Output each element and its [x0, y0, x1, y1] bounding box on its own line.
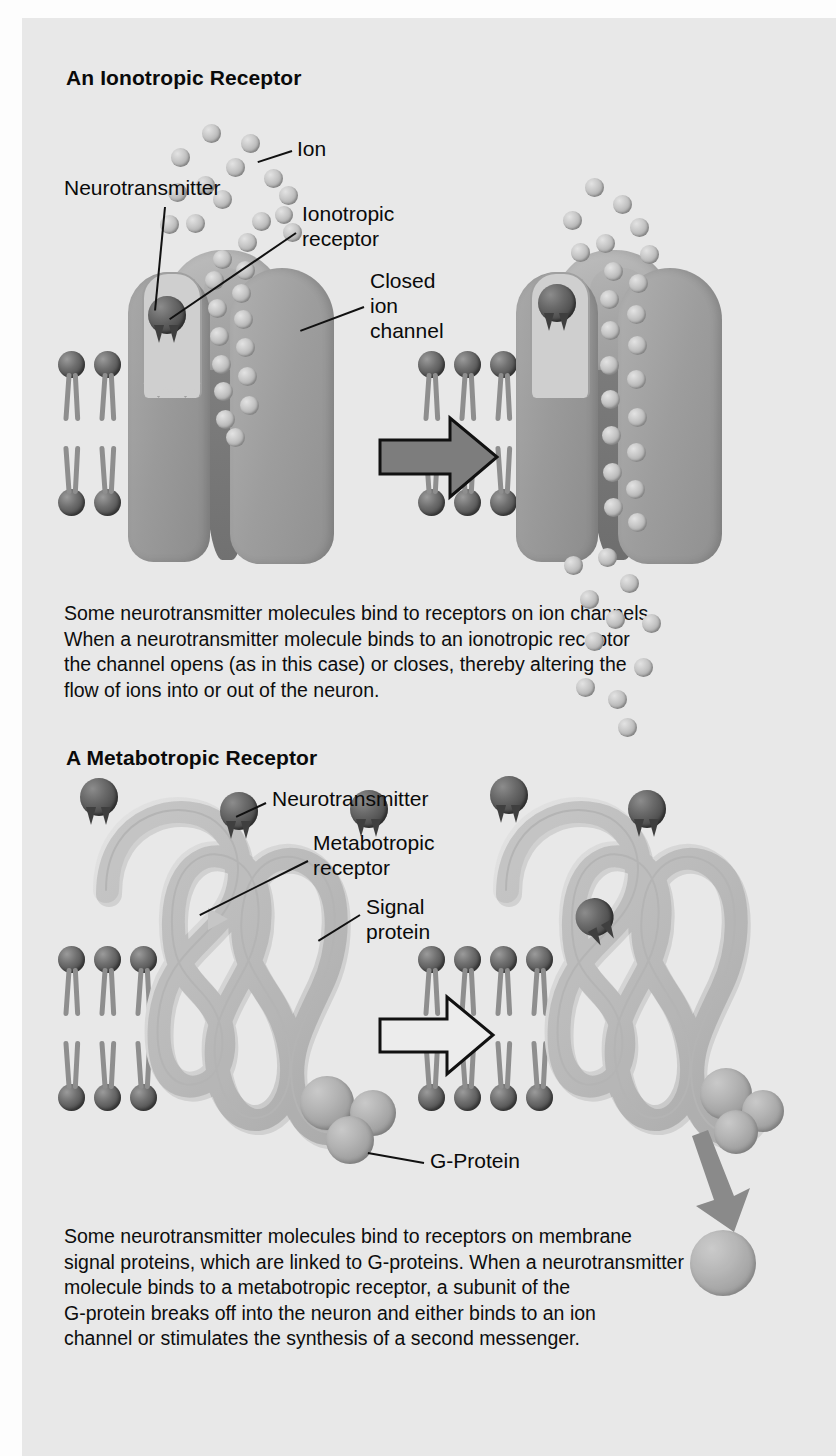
ion-extracellular — [171, 148, 190, 167]
panel-metabotropic: A Metabotropic Receptor Neurotransmitter… — [0, 718, 836, 1456]
neurotransmitter-prong — [101, 807, 111, 825]
lipid-tail — [73, 373, 81, 421]
ion-blocked — [213, 250, 232, 269]
panel-ionotropic: An Ionotropic Receptor Ion Neurotransmit… — [0, 18, 836, 718]
ion-intracellular — [618, 718, 637, 737]
g-protein-subunit-left-2 — [326, 1116, 374, 1164]
ion-in-channel — [602, 426, 621, 445]
ion-extracellular — [613, 195, 632, 214]
ion-intracellular — [606, 610, 625, 629]
neurotransmitter-prong — [511, 805, 521, 823]
neurotransmitter-prong — [544, 313, 554, 331]
neurotransmitter-free-1 — [220, 792, 258, 832]
ion-extracellular — [241, 134, 260, 153]
label-metabotropic-receptor: Metabotropic receptor — [313, 830, 434, 880]
lipid-head — [418, 946, 445, 973]
ion-extracellular — [252, 212, 271, 231]
receptor-pocket-left — [208, 908, 228, 930]
ion-blocked — [234, 310, 253, 329]
ion-intracellular — [608, 690, 627, 709]
ion-intracellular — [580, 590, 599, 609]
ion-in-channel — [601, 321, 620, 340]
ion-in-channel — [600, 356, 619, 375]
neurotransmitter-free-0 — [80, 778, 118, 818]
ion-blocked — [240, 396, 259, 415]
lipid-tail — [63, 446, 71, 494]
neurotransmitter-free-4 — [628, 790, 666, 830]
figure-canvas: An Ionotropic Receptor Ion Neurotransmit… — [0, 0, 836, 1456]
ion-in-channel — [604, 498, 623, 517]
ion-extracellular — [563, 211, 582, 230]
neurotransmitter-prong — [559, 313, 569, 331]
transition-arrow-ionotropic — [378, 410, 500, 506]
ion-in-channel — [629, 274, 648, 293]
caption-metabotropic: Some neurotransmitter molecules bind to … — [64, 1224, 780, 1352]
ion-blocked — [238, 367, 257, 386]
neurotransmitter-prong — [154, 325, 164, 343]
label-neurotransmitter-meta: Neurotransmitter — [272, 786, 428, 811]
neurotransmitter-bound — [148, 296, 186, 336]
section-title-ionotropic: An Ionotropic Receptor — [66, 66, 302, 90]
neurotransmitter-prong — [634, 819, 644, 837]
label-g-protein: G-Protein — [430, 1148, 520, 1173]
ion-extracellular — [585, 178, 604, 197]
ion-blocked — [232, 284, 251, 303]
ion-intracellular — [620, 574, 639, 593]
ion-in-channel — [604, 262, 623, 281]
lipid-tail — [63, 373, 71, 421]
ion-in-channel — [626, 480, 645, 499]
ion-in-channel — [627, 370, 646, 389]
ion-blocked — [226, 428, 245, 447]
label-signal-protein: Signal protein — [366, 894, 430, 944]
neurotransmitter-free-3 — [490, 776, 528, 816]
ion-blocked — [208, 299, 227, 318]
transition-arrow-metabotropic — [378, 990, 496, 1082]
lipid-head — [58, 351, 85, 378]
lipid-head — [454, 351, 481, 378]
label-neurotransmitter: Neurotransmitter — [64, 175, 220, 200]
ion-blocked — [210, 327, 229, 346]
ion-intracellular — [576, 678, 595, 697]
label-ion: Ion — [297, 136, 326, 161]
neurotransmitter-bound — [538, 284, 576, 324]
lipid-head — [418, 351, 445, 378]
g-protein-subunit-released — [690, 1230, 756, 1296]
ion-extracellular — [640, 245, 659, 264]
ion-in-channel — [628, 336, 647, 355]
neurotransmitter-prong — [86, 807, 96, 825]
ion-in-channel — [627, 443, 646, 462]
neurotransmitter-prong — [226, 821, 236, 839]
ion-blocked — [216, 410, 235, 429]
section-title-metabotropic: A Metabotropic Receptor — [66, 746, 317, 770]
ion-intracellular — [564, 556, 583, 575]
neurotransmitter-prong — [496, 805, 506, 823]
ion-extracellular — [186, 214, 205, 233]
ion-in-channel — [628, 408, 647, 427]
lipid-head — [58, 489, 85, 516]
ion-extracellular — [202, 124, 221, 143]
ion-intracellular — [642, 614, 661, 633]
ion-intracellular — [634, 658, 653, 677]
label-closed-ion-channel: Closed ion channel — [370, 268, 444, 343]
leader-line-ion — [258, 150, 293, 163]
ion-extracellular — [571, 243, 590, 262]
ion-extracellular — [630, 218, 649, 237]
lipid-head — [418, 1084, 445, 1111]
ion-in-channel — [628, 513, 647, 532]
ion-intracellular — [598, 548, 617, 567]
ion-in-channel — [601, 390, 620, 409]
ion-in-channel — [603, 463, 622, 482]
ion-extracellular — [279, 186, 298, 205]
ionotropic-receptor-swatch — [275, 206, 293, 224]
neurotransmitter-prong — [169, 325, 179, 343]
ion-extracellular — [238, 233, 257, 252]
ionotropic-channel-right — [494, 250, 744, 570]
ionotropic-channel-left — [106, 250, 356, 570]
lipid-tail — [73, 446, 81, 494]
ion-extracellular — [596, 234, 615, 253]
ion-extracellular — [264, 169, 283, 188]
label-ionotropic-receptor: Ionotropic receptor — [302, 201, 394, 251]
ion-blocked — [236, 338, 255, 357]
ion-blocked — [212, 355, 231, 374]
page-margin-top — [0, 0, 836, 18]
